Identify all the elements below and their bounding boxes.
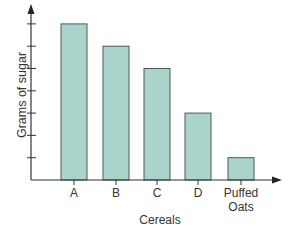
x-tick-label-d: D <box>188 186 208 200</box>
y-axis-arrow-icon <box>28 4 35 14</box>
x-axis-ticks <box>74 180 241 185</box>
x-axis-arrow-icon <box>272 177 282 184</box>
x-tick-label-b: B <box>106 186 126 200</box>
bar-puffed-oats <box>228 158 254 180</box>
bar-c <box>144 69 170 181</box>
x-tick-label-line2: Oats <box>216 200 266 214</box>
bar-d <box>185 113 211 180</box>
x-tick-label-a: A <box>64 186 84 200</box>
y-axis-label: Grams of sugar <box>15 45 29 145</box>
x-tick-label-c: C <box>147 186 167 200</box>
x-tick-label-line1: Puffed <box>216 186 266 200</box>
bars <box>61 24 254 180</box>
x-axis-label: Cereals <box>130 213 190 227</box>
bar-a <box>61 24 87 180</box>
x-tick-label-puffed-oats: Puffed Oats <box>216 186 266 214</box>
bar-b <box>103 46 129 180</box>
